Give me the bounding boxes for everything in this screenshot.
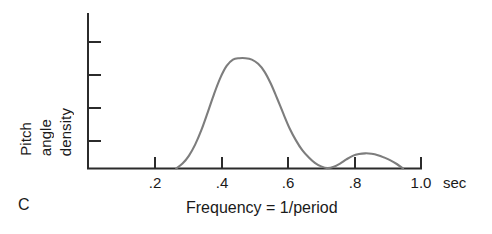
x-tick-label-0.4: .4 [216, 174, 229, 191]
x-tick-label-1.0: 1.0 [411, 174, 432, 191]
figure-panel-c: Pitch angle density .2 .4 .6 .8 1.0 sec … [0, 0, 492, 234]
x-axis-title: Frequency = 1/period [186, 199, 338, 217]
y-axis-title-line-3: density [58, 108, 73, 156]
x-axis-unit-label: sec [443, 174, 466, 191]
x-tick-label-0.2: .2 [149, 174, 162, 191]
panel-label: C [18, 196, 30, 214]
x-axis-ticks [155, 157, 421, 169]
density-curve [176, 58, 403, 168]
y-axis-ticks [88, 42, 101, 141]
y-axis-title: Pitch angle density [18, 38, 84, 156]
x-tick-label-0.8: .8 [349, 174, 362, 191]
x-tick-label-0.6: .6 [282, 174, 295, 191]
y-axis-title-line-2: angle [38, 119, 53, 156]
y-axis-title-line-1: Pitch [18, 122, 33, 156]
